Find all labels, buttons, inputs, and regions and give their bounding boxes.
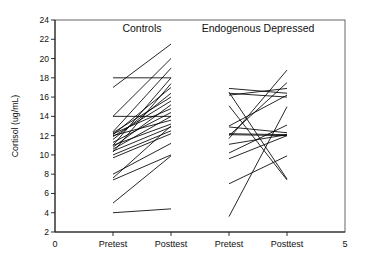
subject-line <box>113 127 171 151</box>
subject-line <box>229 107 287 217</box>
subject-line <box>229 156 287 184</box>
x-tick-label: Posttest <box>271 239 304 249</box>
y-tick-label: 24 <box>40 15 50 25</box>
subject-line <box>113 156 171 203</box>
y-tick-label: 22 <box>40 34 50 44</box>
subject-line <box>229 70 287 138</box>
subject-line <box>229 93 287 97</box>
axis-lines <box>55 20 345 232</box>
subject-line <box>229 95 287 126</box>
x-origin-label: 0 <box>52 239 57 249</box>
x-tick-label: Pretest <box>99 239 128 249</box>
y-axis-title: Cortisol (ug/mL) <box>10 95 20 158</box>
subject-line <box>113 126 171 178</box>
y-tick-label: 10 <box>40 150 50 160</box>
y-tick-label: 4 <box>44 208 49 218</box>
group-title: Controls <box>122 22 161 34</box>
x-tick-label: Pretest <box>215 239 244 249</box>
y-tick-label: 14 <box>40 111 50 121</box>
subject-line <box>113 44 171 87</box>
y-tick-label: 6 <box>44 188 49 198</box>
group-title: Endogenous Depressed <box>202 22 315 34</box>
y-tick-label: 8 <box>44 169 49 179</box>
y-tick-label: 2 <box>44 227 49 237</box>
y-tick-label: 20 <box>40 54 50 64</box>
y-tick-label: 16 <box>40 92 50 102</box>
x-end-label: 5 <box>342 239 347 249</box>
x-tick-label: Posttest <box>155 239 188 249</box>
subject-line <box>113 209 171 213</box>
plot-frame <box>55 20 345 232</box>
chart-canvas: 24681012141618202224Cortisol (ug/mL)Pret… <box>0 0 365 268</box>
subject-line <box>113 134 171 158</box>
y-tick-label: 12 <box>40 131 50 141</box>
subject-line <box>113 101 171 137</box>
cortisol-spaghetti-figure: 24681012141618202224Cortisol (ug/mL)Pret… <box>0 0 365 268</box>
y-tick-label: 18 <box>40 73 50 83</box>
subject-line <box>229 127 287 133</box>
